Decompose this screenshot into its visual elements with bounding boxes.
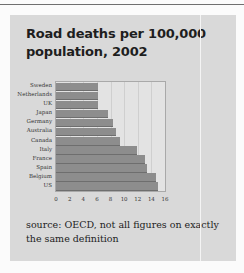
category-label: Spain xyxy=(36,163,52,172)
category-label: UK xyxy=(43,99,52,108)
category-label: Australia xyxy=(27,126,52,135)
category-label: Japan xyxy=(36,108,52,117)
bar-sweden xyxy=(56,83,98,92)
category-label: Germany xyxy=(27,117,52,126)
category-label: Netherlands xyxy=(17,90,52,99)
plot-area xyxy=(55,81,166,192)
x-tick-label: 14 xyxy=(148,196,155,202)
x-tick-label: 10 xyxy=(121,196,128,202)
bar-canada xyxy=(56,137,120,146)
category-label: Italy xyxy=(39,145,52,154)
bar-germany xyxy=(56,119,113,128)
x-tick-label: 16 xyxy=(162,196,169,202)
category-label: France xyxy=(32,154,52,163)
bar-uk xyxy=(56,101,98,110)
x-tick-label: 8 xyxy=(109,196,113,202)
category-label: Belgium xyxy=(29,172,52,181)
bar-italy xyxy=(56,146,137,155)
x-tick-label: 4 xyxy=(82,196,86,202)
x-tick-label: 6 xyxy=(95,196,99,202)
bar-us xyxy=(56,182,158,191)
bar-japan xyxy=(56,110,108,119)
category-label: US xyxy=(44,181,52,190)
x-tick-label: 2 xyxy=(68,196,72,202)
category-label: Sweden xyxy=(30,81,52,90)
x-tick-label: 12 xyxy=(134,196,141,202)
chart-card: Road deaths per 100,000 population, 2002… xyxy=(10,15,236,261)
bar-spain xyxy=(56,164,147,173)
bar-france xyxy=(56,155,145,164)
top-rule xyxy=(0,4,244,5)
x-tick-label: 0 xyxy=(54,196,58,202)
page-fold-line xyxy=(200,15,201,261)
bar-netherlands xyxy=(56,92,98,101)
category-label: Canada xyxy=(31,136,52,145)
bar-belgium xyxy=(56,173,156,182)
bar-australia xyxy=(56,128,116,137)
